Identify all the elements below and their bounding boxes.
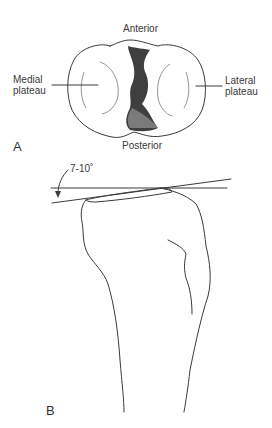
tibia-lateral-illustration: [0, 0, 272, 428]
